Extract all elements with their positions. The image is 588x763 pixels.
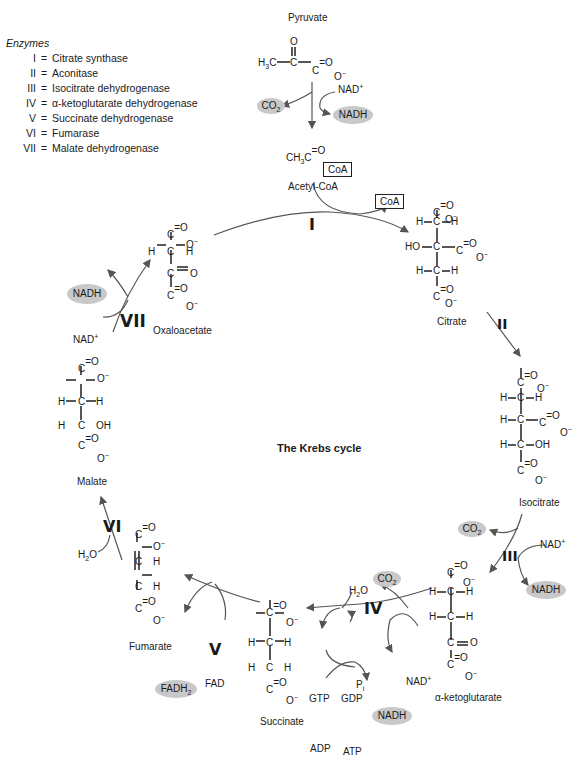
atom: H (153, 581, 160, 592)
oxaloacetate-label: Oxaloacetate (153, 325, 212, 336)
atom: C (290, 57, 297, 68)
atom: H (58, 396, 65, 407)
atom: H (535, 392, 542, 403)
diagram-title: The Krebs cycle (277, 442, 361, 454)
atom: H (429, 586, 436, 597)
fumarate-label: Fumarate (129, 641, 172, 652)
atom: C=O (456, 238, 477, 256)
atom: C=O (447, 652, 468, 670)
co2-pill: CO2 (257, 98, 285, 114)
atom: HO (405, 241, 420, 252)
atom: CH3C=O (286, 145, 325, 165)
enzyme-mark-I: I (309, 215, 315, 234)
gtp-label: GTP (309, 693, 330, 704)
h2o-label: H2O (349, 585, 368, 598)
h2o-label: H2O (78, 549, 97, 562)
nad-label: NAD+ (540, 538, 565, 550)
alpha-ketoglutarate-label: α-ketoglutarate (435, 692, 502, 703)
atom: H (429, 611, 436, 622)
atom: C=O (78, 433, 99, 451)
fad-label: FAD (205, 678, 224, 689)
pathway-arrows (0, 0, 588, 763)
atom: C=O (167, 283, 188, 301)
atom: C=O (135, 596, 156, 614)
atom: H (466, 611, 473, 622)
atom: O− (560, 426, 572, 438)
atom: H3C (258, 57, 276, 70)
nad-label: NAD+ (338, 83, 363, 95)
atom: C (447, 611, 454, 622)
atom: H (500, 439, 507, 450)
atom: OH (535, 439, 550, 450)
nad-label: NAD+ (73, 333, 98, 345)
succinate-label: Succinate (260, 716, 304, 727)
atom: O− (535, 474, 547, 486)
atom: O− (153, 614, 165, 626)
atom: O− (153, 540, 165, 552)
atom: C=O (167, 222, 188, 240)
atom: C=O (266, 677, 287, 695)
atom: C (433, 265, 440, 276)
enzyme-mark-V: V (209, 640, 221, 659)
atom: C (266, 662, 273, 673)
atom: C (517, 439, 524, 450)
atom: C (447, 586, 454, 597)
coa-box: CoA (323, 162, 352, 177)
atom: C=O (312, 57, 333, 76)
nad-label-iv: NAD+ (406, 675, 431, 687)
acetyl-coa-label: Acetyl-CoA (288, 181, 338, 192)
atom: H (500, 392, 507, 403)
atom: C (135, 556, 142, 567)
atom: H (451, 265, 458, 276)
enzyme-mark-III: III (502, 548, 518, 564)
atom: O− (97, 452, 109, 464)
atom: C (433, 216, 440, 227)
enzyme-mark-IV: IV (364, 599, 382, 618)
atom: C (517, 392, 524, 403)
atom: H (284, 637, 291, 648)
nadh-pill: NADH (372, 707, 412, 725)
atom: H (451, 216, 458, 227)
atom: C (167, 246, 174, 257)
atom: H (186, 246, 193, 257)
gdp-label: GDP (341, 693, 363, 704)
atp-label: ATP (343, 746, 362, 757)
pi-label: Pi (356, 679, 364, 692)
atom: C=O (517, 370, 538, 388)
atom: C (78, 420, 85, 431)
atom: O− (286, 694, 298, 706)
atom: C=O (539, 410, 560, 428)
atom: C (266, 637, 273, 648)
atom: O (190, 268, 198, 279)
atom: H (284, 662, 291, 673)
fadh2-pill: FADH2 (155, 680, 197, 698)
atom: H (148, 246, 155, 257)
nadh-pill: NADH (333, 106, 373, 124)
atom: OH (96, 420, 111, 431)
nadh-pill: NADH (67, 284, 107, 304)
atom: H (153, 556, 160, 567)
atom: H (248, 637, 255, 648)
atom: C (447, 637, 454, 648)
atom: O (290, 36, 298, 47)
atom: H (58, 420, 65, 431)
atom: H (416, 265, 423, 276)
enzyme-mark-II: II (497, 316, 507, 332)
atom: O− (97, 372, 109, 384)
atom: C (167, 268, 174, 279)
atom: C=O (135, 522, 156, 540)
atom: O (470, 637, 478, 648)
co2-pill: CO2 (458, 521, 486, 537)
atom: O− (334, 70, 346, 82)
nadh-pill: NADH (526, 581, 566, 599)
adp-label: ADP (310, 743, 331, 754)
atom: O− (186, 300, 198, 312)
atom: C (433, 241, 440, 252)
atom: O− (445, 297, 457, 309)
co2-pill: CO2 (373, 571, 401, 587)
atom: H (500, 414, 507, 425)
atom: O− (476, 251, 488, 263)
isocitrate-label: Isocitrate (519, 497, 560, 508)
malate-label: Malate (77, 476, 107, 487)
atom: H (416, 216, 423, 227)
